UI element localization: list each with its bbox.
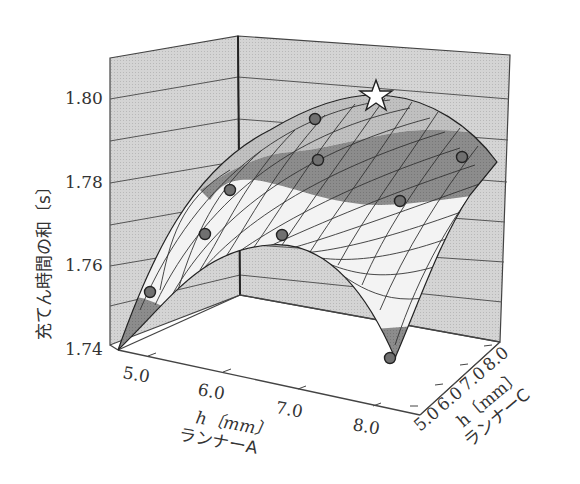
x-axis	[148, 353, 381, 406]
x-tick: 7.0	[274, 397, 304, 421]
z-axis: 1.80 1.78 1.76 1.74 充てん時間の和〔s〕	[34, 88, 103, 359]
x-tick: 8.0	[351, 414, 381, 438]
data-point	[277, 230, 288, 241]
z-axis-label: 充てん時間の和〔s〕	[34, 178, 54, 340]
data-point	[385, 353, 396, 364]
x-tick: 5.0	[121, 362, 151, 386]
z-tick: 1.78	[65, 172, 103, 192]
z-tick: 1.80	[65, 88, 103, 108]
data-point	[145, 287, 156, 298]
surface-chart: 1.80 1.78 1.76 1.74 充てん時間の和〔s〕 5.0 6.0 7…	[0, 0, 580, 484]
data-point	[395, 196, 406, 207]
x-tick: 6.0	[196, 379, 226, 403]
data-point	[225, 185, 236, 196]
data-point	[457, 152, 468, 163]
data-point	[200, 229, 211, 240]
data-point	[310, 114, 321, 125]
z-tick: 1.74	[65, 339, 103, 359]
data-point	[313, 155, 324, 166]
z-tick: 1.76	[65, 255, 103, 275]
